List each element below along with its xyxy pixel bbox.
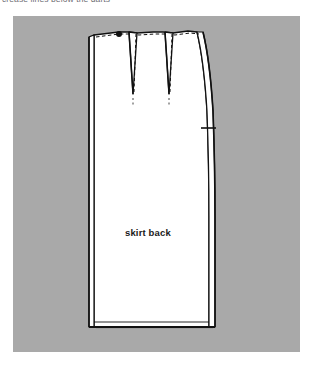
pattern-body-outline [94,31,209,327]
caption-clip: crease lines below the darts [0,0,315,7]
waist-notch-icon [116,31,122,37]
illustration-panel: skirt back [13,16,300,352]
figure-root: crease lines below the darts [0,0,315,366]
skirt-back-pattern-illustration [13,16,300,352]
figure-caption: crease lines below the darts [2,0,110,5]
